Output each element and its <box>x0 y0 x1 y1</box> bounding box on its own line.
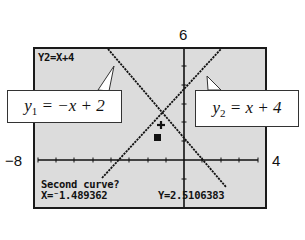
ymax-label: 6 <box>179 26 187 43</box>
xmin-label: −8 <box>5 152 22 169</box>
xmax-label: 4 <box>272 152 280 169</box>
calculator-screen: Y2=X+4 Second curve? X=⁻1.489362 Y=2.510… <box>33 47 267 209</box>
y2-var: y <box>212 98 220 117</box>
y1-var: y <box>24 96 32 115</box>
y2-rhs: = x + 4 <box>226 98 282 117</box>
square-cursor <box>154 134 161 141</box>
y1-callout: y1 = −x + 2 <box>7 90 122 123</box>
y2-callout: y2 = x + 4 <box>195 90 299 127</box>
y1-rhs: = −x + 2 <box>37 96 104 115</box>
y-readout: Y=2.5106383 <box>158 190 224 201</box>
function-label: Y2=X+4 <box>38 52 74 63</box>
x-readout: X=⁻1.489362 <box>41 190 107 201</box>
plus-cursor <box>157 121 165 129</box>
